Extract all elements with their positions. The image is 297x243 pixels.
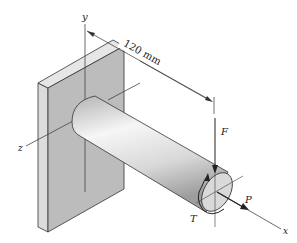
shaft-diagram: y z 120 mm F P x T [0,0,297,243]
y-axis-label: y [81,11,88,22]
force-f-label: F [220,126,229,137]
x-axis-label: x [283,226,288,236]
force-p-label: P [244,194,252,205]
force-f-arrow [212,118,218,174]
z-axis-label: z [17,143,23,153]
torque-t-label: T [190,213,198,224]
